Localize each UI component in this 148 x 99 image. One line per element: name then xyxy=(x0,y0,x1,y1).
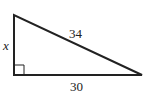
vertical-leg-label: x xyxy=(2,38,9,53)
hypotenuse-label: 34 xyxy=(69,26,83,41)
horizontal-leg-label: 30 xyxy=(70,79,83,94)
right-triangle xyxy=(14,15,142,75)
right-angle-marker xyxy=(14,65,24,75)
triangle-diagram: x 34 30 xyxy=(0,0,148,99)
